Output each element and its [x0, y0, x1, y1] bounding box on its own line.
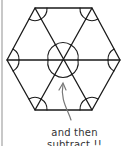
annotation-line-2: subtract !! — [0, 139, 127, 146]
annotation-line-1: and then — [0, 127, 127, 138]
hexagon-diagram — [0, 0, 127, 146]
arrow-icon — [59, 83, 71, 120]
